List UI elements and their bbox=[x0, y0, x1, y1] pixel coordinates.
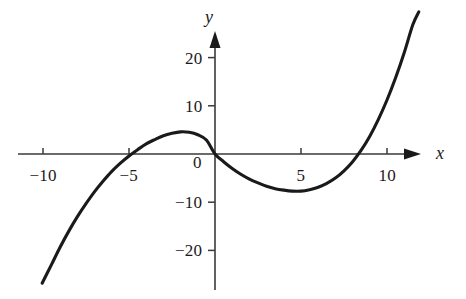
y-tick-label: −20 bbox=[175, 242, 202, 259]
plot-canvas bbox=[0, 0, 466, 299]
y-tick-label: 20 bbox=[185, 50, 202, 67]
x-tick-label: 5 bbox=[297, 167, 306, 184]
x-axis-arrowhead bbox=[404, 149, 421, 160]
y-tick-label: 10 bbox=[185, 98, 202, 115]
x-axis-label: x bbox=[436, 144, 444, 162]
y-axis-label: y bbox=[205, 8, 213, 26]
y-tick-label: −10 bbox=[175, 194, 202, 211]
function-curve bbox=[42, 12, 419, 283]
x-tick-label: 10 bbox=[379, 167, 396, 184]
y-axis-group bbox=[208, 31, 221, 290]
x-tick-label: −5 bbox=[120, 167, 139, 184]
y-axis-arrowhead bbox=[210, 31, 221, 48]
cubic-function-graph: x y −10−5510 20100−10−20 bbox=[0, 0, 466, 299]
x-tick-label: −10 bbox=[30, 167, 57, 184]
origin-label: 0 bbox=[193, 154, 202, 171]
